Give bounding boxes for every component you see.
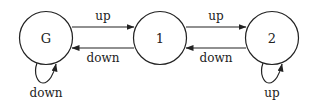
- edge-label-2-to-1: down: [200, 51, 233, 65]
- edge-label-1-to-2: up: [208, 9, 224, 23]
- edge-g-to-1: up: [72, 9, 134, 27]
- state-node-2: 2: [246, 12, 299, 65]
- edge-label-g-to-1: up: [95, 9, 111, 23]
- edge-1-to-2: up: [186, 9, 246, 27]
- state-node-g: G: [20, 12, 73, 65]
- state-label-g: G: [41, 31, 51, 46]
- loop-arrow-icon: [262, 63, 282, 83]
- edge-label-g-to-g: down: [30, 86, 63, 100]
- edge-2-to-1: down: [186, 48, 246, 65]
- edge-label-2-to-2: up: [264, 86, 280, 100]
- state-label-2: 2: [268, 31, 276, 46]
- state-label-1: 1: [156, 31, 164, 46]
- state-diagram: G 1 2 up down up down: [0, 0, 317, 104]
- state-node-1: 1: [134, 12, 187, 65]
- edge-1-to-g: down: [72, 48, 134, 65]
- self-loop-2: up: [262, 63, 282, 100]
- self-loop-g: down: [30, 63, 63, 100]
- edge-label-1-to-g: down: [87, 51, 120, 65]
- loop-arrow-icon: [36, 63, 56, 83]
